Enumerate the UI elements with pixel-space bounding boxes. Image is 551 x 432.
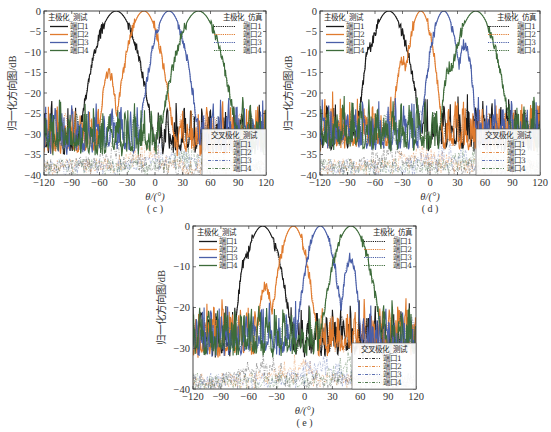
y-tick-label: −10 [301, 47, 317, 58]
x-tick-label: 0 [152, 177, 157, 188]
x-tick-label: 90 [507, 177, 518, 188]
y-tick-label: −15 [25, 67, 41, 78]
y-tick-label: −5 [306, 26, 317, 37]
chart-panel-d: −120−90−60−3003060901200−5−10−15−20−25−3… [276, 0, 551, 215]
panel-caption: ( e ) [296, 417, 312, 429]
y-tick-label: −25 [25, 108, 41, 119]
legend-co-pol-measured: 主极化_测试端口1端口2端口3端口4 [48, 12, 89, 55]
y-tick-label: −5 [30, 26, 41, 37]
x-tick-label: 30 [452, 177, 463, 188]
x-tick-label: −30 [119, 177, 135, 188]
x-axis-title: θ/(°) [420, 191, 440, 203]
panel-caption: ( d ) [422, 203, 439, 215]
svg-text:主极化_测试: 主极化_测试 [48, 12, 88, 22]
y-tick-label: −30 [25, 129, 41, 140]
svg-text:交叉极化_测试: 交叉极化_测试 [361, 344, 408, 354]
x-tick-label: −90 [339, 177, 355, 188]
x-tick-label: −60 [91, 177, 107, 188]
legend-co-pol-measured: 主极化_测试端口1端口2端口3端口4 [324, 12, 365, 55]
y-tick-label: −30 [174, 343, 190, 354]
svg-text:端口4: 端口4 [219, 260, 238, 270]
x-tick-label: −90 [64, 177, 80, 188]
x-tick-label: 60 [355, 391, 366, 402]
x-tick-label: −30 [268, 391, 284, 402]
x-tick-label: 30 [327, 391, 338, 402]
svg-text:端口4: 端口4 [517, 45, 536, 55]
x-axis-title: θ/(°) [145, 191, 165, 203]
y-tick-label: −40 [301, 170, 317, 181]
y-axis-title: 归一化方向图/dB [155, 270, 167, 345]
y-tick-label: −40 [25, 170, 41, 181]
x-tick-label: 120 [258, 177, 274, 188]
svg-text:端口4: 端口4 [383, 377, 402, 387]
y-tick-label: −40 [174, 384, 190, 395]
svg-text:端口4: 端口4 [507, 163, 526, 173]
y-tick-label: −20 [25, 88, 41, 99]
x-tick-label: −90 [213, 391, 229, 402]
svg-text:端口4: 端口4 [233, 163, 252, 173]
y-tick-label: −15 [301, 67, 317, 78]
chart-d: −120−90−60−3003060901200−5−10−15−20−25−3… [276, 0, 551, 215]
x-tick-label: −30 [394, 177, 410, 188]
legend-cross-pol-measured: 交叉极化_测试端口1端口2端口3端口4 [476, 129, 540, 175]
y-tick-label: −10 [25, 47, 41, 58]
y-tick-label: 0 [36, 6, 41, 17]
svg-text:端口4: 端口4 [70, 45, 89, 55]
svg-text:主极化_仿真: 主极化_仿真 [223, 12, 263, 22]
chart-panel-c: −120−90−60−3003060901200−5−10−15−20−25−3… [0, 0, 280, 215]
x-tick-label: 0 [427, 177, 432, 188]
x-tick-label: 0 [302, 391, 307, 402]
legend-co-pol-simulated: 主极化_仿真端口1端口2端口3端口4 [214, 12, 263, 55]
x-tick-label: 90 [233, 177, 244, 188]
svg-text:端口4: 端口4 [393, 260, 412, 270]
panel-caption: ( c ) [147, 203, 163, 215]
x-tick-label: 30 [178, 177, 189, 188]
svg-text:主极化_仿真: 主极化_仿真 [373, 227, 413, 237]
y-tick-label: −20 [174, 302, 190, 313]
svg-text:端口4: 端口4 [346, 45, 365, 55]
x-tick-label: 120 [532, 177, 548, 188]
svg-text:主极化_测试: 主极化_测试 [324, 12, 364, 22]
y-axis-title: 归一化方向图/dB [282, 55, 294, 130]
svg-text:主极化_仿真: 主极化_仿真 [497, 12, 537, 22]
svg-text:交叉极化_测试: 交叉极化_测试 [211, 130, 258, 140]
chart-panel-e: −120−90−60−3003060901200−10−20−30−40θ/(°… [149, 215, 429, 432]
y-tick-label: 0 [185, 221, 190, 232]
y-tick-label: −35 [301, 149, 317, 160]
x-tick-label: −60 [367, 177, 383, 188]
x-tick-label: 60 [480, 177, 491, 188]
svg-text:交叉极化_测试: 交叉极化_测试 [485, 130, 532, 140]
y-tick-label: −35 [25, 149, 41, 160]
y-axis-title: 归一化方向图/dB [6, 55, 18, 130]
svg-text:端口4: 端口4 [243, 45, 262, 55]
y-tick-label: −10 [174, 261, 190, 272]
x-axis-title: θ/(°) [295, 405, 315, 417]
y-tick-label: 0 [312, 6, 317, 17]
y-tick-label: −30 [301, 129, 317, 140]
x-tick-label: 60 [205, 177, 216, 188]
legend-cross-pol-measured: 交叉极化_测试端口1端口2端口3端口4 [352, 343, 416, 389]
y-tick-label: −20 [301, 88, 317, 99]
x-tick-label: 90 [383, 391, 394, 402]
legend-co-pol-simulated: 主极化_仿真端口1端口2端口3端口4 [364, 227, 413, 270]
x-tick-label: −60 [241, 391, 257, 402]
x-tick-label: 120 [408, 391, 424, 402]
legend-cross-pol-measured: 交叉极化_测试端口1端口2端口3端口4 [202, 129, 266, 175]
chart-c: −120−90−60−3003060901200−5−10−15−20−25−3… [0, 0, 280, 215]
y-tick-label: −25 [301, 108, 317, 119]
chart-e: −120−90−60−3003060901200−10−20−30−40θ/(°… [149, 215, 429, 432]
legend-co-pol-measured: 主极化_测试端口1端口2端口3端口4 [197, 227, 238, 270]
svg-text:主极化_测试: 主极化_测试 [197, 227, 237, 237]
